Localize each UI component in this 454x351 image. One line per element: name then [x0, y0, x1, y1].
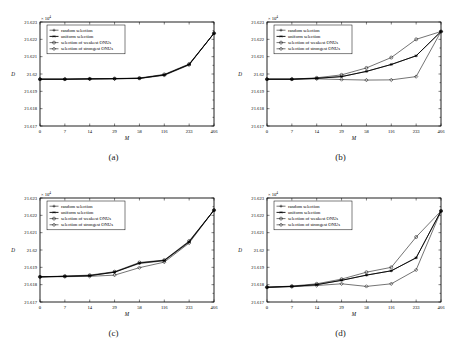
- x-tick-label: 14: [87, 129, 92, 134]
- y-axis-title: D: [10, 247, 15, 253]
- y-tick-label: 21.623: [24, 20, 37, 25]
- x-tick-label: 0: [39, 129, 42, 134]
- y-axis-title: D: [10, 71, 15, 77]
- axis-exponent-label: × 104: [41, 15, 51, 21]
- legend-label: selection of weakest ONUs: [61, 216, 111, 221]
- legend-label: random selection: [288, 28, 320, 33]
- chart-panel-a: 21.61721.61821.61921.6221.62121.62221.62…: [0, 0, 227, 175]
- x-tick-label: 466: [438, 129, 446, 134]
- x-tick-label: 0: [39, 305, 42, 310]
- y-tick-label: 21.617: [251, 300, 264, 305]
- x-axis-title: M: [351, 135, 357, 141]
- x-tick-label: 7: [64, 129, 67, 134]
- x-axis-title: M: [351, 311, 357, 317]
- x-tick-label: 116: [388, 305, 395, 310]
- y-tick-label: 21.619: [251, 89, 264, 94]
- chart-panel-b: 21.61721.61821.61921.6221.62121.62221.62…: [227, 0, 454, 175]
- x-tick-label: 14: [314, 129, 319, 134]
- y-tick-label: 21.623: [251, 196, 264, 201]
- x-tick-label: 7: [291, 305, 294, 310]
- axis-exponent-power: 4: [49, 191, 51, 195]
- legend-label: selection of strongest ONUs: [288, 222, 340, 227]
- figure-panel-grid: 21.61721.61821.61921.6221.62121.62221.62…: [0, 0, 454, 351]
- x-tick-label: 233: [186, 129, 194, 134]
- axis-exponent-power: 4: [49, 15, 51, 19]
- x-tick-label: 58: [364, 129, 369, 134]
- axis-exponent-label: × 104: [268, 191, 278, 197]
- x-tick-label: 7: [291, 129, 294, 134]
- chart-panel-d: 21.61721.61821.61921.6221.62121.62221.62…: [227, 176, 454, 351]
- legend-label: uniform selection: [61, 210, 94, 215]
- x-tick-label: 116: [161, 129, 168, 134]
- chart-panel-c: 21.61721.61821.61921.6221.62121.62221.62…: [0, 176, 227, 351]
- x-tick-label: 466: [211, 305, 219, 310]
- x-tick-label: 14: [314, 305, 319, 310]
- y-tick-label: 21.62: [27, 72, 38, 77]
- y-tick-label: 21.619: [24, 265, 37, 270]
- legend-label: uniform selection: [61, 34, 94, 39]
- axis-exponent-label: × 104: [41, 191, 51, 197]
- legend-label: selection of weakest ONUs: [61, 40, 111, 45]
- y-tick-label: 21.621: [251, 54, 264, 59]
- legend-label: selection of strongest ONUs: [288, 46, 340, 51]
- x-axis-title: M: [124, 135, 130, 141]
- y-tick-label: 21.619: [24, 89, 37, 94]
- x-tick-label: 29: [339, 305, 344, 310]
- legend-label: selection of strongest ONUs: [61, 222, 113, 227]
- x-tick-label: 29: [112, 305, 117, 310]
- y-tick-label: 21.62: [27, 248, 38, 253]
- legend-label: random selection: [61, 28, 93, 33]
- axis-exponent-power: 4: [276, 191, 278, 195]
- y-tick-label: 21.622: [251, 213, 264, 218]
- x-tick-label: 29: [339, 129, 344, 134]
- y-axis-title: D: [237, 71, 242, 77]
- x-axis-title: M: [124, 311, 130, 317]
- y-tick-label: 21.621: [24, 230, 37, 235]
- axis-exponent-label: × 104: [268, 15, 278, 21]
- y-tick-label: 21.618: [24, 106, 37, 111]
- x-tick-label: 233: [186, 305, 194, 310]
- caption-b: (b): [227, 152, 454, 162]
- y-tick-label: 21.617: [251, 124, 264, 129]
- chart-svg-d: 21.61721.61821.61921.6221.62121.62221.62…: [227, 176, 454, 326]
- y-tick-label: 21.622: [24, 213, 37, 218]
- y-tick-label: 21.623: [24, 196, 37, 201]
- chart-svg-a: 21.61721.61821.61921.6221.62121.62221.62…: [0, 0, 227, 150]
- x-tick-label: 233: [413, 305, 421, 310]
- legend-label: random selection: [61, 204, 93, 209]
- x-tick-label: 58: [137, 305, 142, 310]
- y-tick-label: 21.62: [254, 248, 265, 253]
- y-tick-label: 21.617: [24, 300, 37, 305]
- legend-label: selection of weakest ONUs: [288, 216, 338, 221]
- chart-svg-c: 21.61721.61821.61921.6221.62121.62221.62…: [0, 176, 227, 326]
- x-tick-label: 116: [161, 305, 168, 310]
- legend-label: uniform selection: [288, 210, 321, 215]
- x-tick-label: 29: [112, 129, 117, 134]
- caption-c: (c): [0, 328, 227, 338]
- x-tick-label: 233: [413, 129, 421, 134]
- x-tick-label: 466: [438, 305, 446, 310]
- y-tick-label: 21.618: [24, 282, 37, 287]
- x-tick-label: 0: [266, 305, 269, 310]
- legend-label: random selection: [288, 204, 320, 209]
- x-tick-label: 58: [364, 305, 369, 310]
- x-tick-label: 466: [211, 129, 219, 134]
- y-tick-label: 21.62: [254, 72, 265, 77]
- axis-exponent-power: 4: [276, 15, 278, 19]
- y-tick-label: 21.617: [24, 124, 37, 129]
- legend-label: selection of weakest ONUs: [288, 40, 338, 45]
- y-tick-label: 21.622: [251, 37, 264, 42]
- x-tick-label: 14: [87, 305, 92, 310]
- caption-a: (a): [0, 152, 227, 162]
- y-tick-label: 21.618: [251, 282, 264, 287]
- x-tick-label: 58: [137, 129, 142, 134]
- y-tick-label: 21.621: [24, 54, 37, 59]
- legend-label: uniform selection: [288, 34, 321, 39]
- x-tick-label: 116: [388, 129, 395, 134]
- x-tick-label: 0: [266, 129, 269, 134]
- x-tick-label: 7: [64, 305, 67, 310]
- y-axis-title: D: [237, 247, 242, 253]
- y-tick-label: 21.619: [251, 265, 264, 270]
- y-tick-label: 21.621: [251, 230, 264, 235]
- caption-d: (d): [227, 328, 454, 338]
